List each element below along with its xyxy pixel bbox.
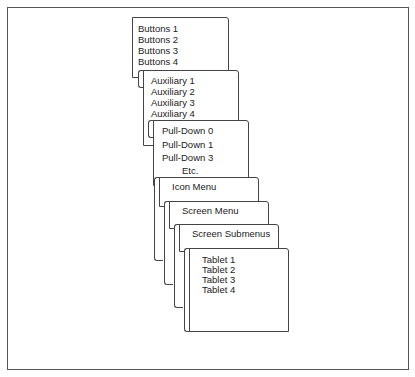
pulldown-item-1: Pull-Down 1 bbox=[162, 139, 213, 151]
screen-menu-label: Screen Menu bbox=[182, 205, 239, 217]
pulldown-item-0: Pull-Down 0 bbox=[162, 125, 213, 137]
auxiliary-item-4: Auxiliary 4 bbox=[151, 108, 195, 120]
screen-submenus-label: Screen Submenus bbox=[192, 228, 270, 240]
pulldown-item-etc: Etc. bbox=[182, 165, 198, 177]
pulldown-item-3: Pull-Down 3 bbox=[162, 152, 213, 164]
icon-menu-label: Icon Menu bbox=[172, 181, 216, 193]
buttons-item-4: Buttons 4 bbox=[138, 56, 178, 68]
tablet-item-4: Tablet 4 bbox=[202, 284, 235, 296]
